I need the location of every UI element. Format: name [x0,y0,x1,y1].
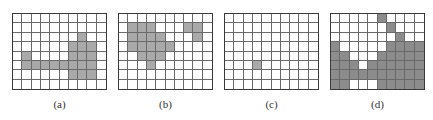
grid-cell [166,80,175,89]
panel-a: (a) [12,13,107,90]
grid-cell [41,14,50,23]
grid-cell [32,14,41,23]
panel-b: (b) [118,13,213,90]
grid-cell-filled [156,42,165,51]
grid-cell [97,52,106,61]
grid-cell-filled [350,61,359,70]
grid-cell [97,14,106,23]
grid-cell [262,14,271,23]
grid-cell [396,23,405,32]
grid-cell [78,14,87,23]
grid-cell [234,23,243,32]
grid-cell [69,80,78,89]
grid-cell [281,42,290,51]
grid-cell-filled [415,42,424,51]
grid-cell-filled [405,42,414,51]
grid-cell-filled [69,61,78,70]
grid-cell [203,23,212,32]
grid-cell [309,33,318,42]
grid-cell [203,14,212,23]
grid-cell [13,70,22,79]
grid-cell-filled [331,42,340,51]
grid-cell [340,42,349,51]
grid-cell [244,33,253,42]
grid-cell [166,33,175,42]
grid-b [118,13,213,90]
grid-cell-filled [78,70,87,79]
grid-cell [396,14,405,23]
grid-cell [32,80,41,89]
grid-cell [309,52,318,61]
grid-cell [405,33,414,42]
grid-cell [138,61,147,70]
grid-cell [225,42,234,51]
grid-cell-filled [147,52,156,61]
grid-cell-filled [184,23,193,32]
grid-cell [60,42,69,51]
grid-cell [119,33,128,42]
grid-cell [97,80,106,89]
grid-cell [193,70,202,79]
grid-cell [41,70,50,79]
grid-cell [184,70,193,79]
grid-cell [22,14,31,23]
grid-cell [128,80,137,89]
grid-cell-filled [147,42,156,51]
grid-cell-filled [415,70,424,79]
grid-cell [156,61,165,70]
grid-cell [147,70,156,79]
grid-cell [272,80,281,89]
grid-cell [119,70,128,79]
grid-cell [50,80,59,89]
grid-cell [184,52,193,61]
grid-cell [156,14,165,23]
grid-cell [272,33,281,42]
grid-cell [225,61,234,70]
grid-cell-filled [378,14,387,23]
grid-cell [60,23,69,32]
grid-cell-filled [396,33,405,42]
grid-cell [378,23,387,32]
grid-cell [32,33,41,42]
grid-cell [166,61,175,70]
grid-cell [78,23,87,32]
grid-cell [331,23,340,32]
grid-cell [203,70,212,79]
grid-cell [262,61,271,70]
grid-cell [203,33,212,42]
grid-cell [119,14,128,23]
grid-cell-filled [396,61,405,70]
grid-cell [87,14,96,23]
grid-cell [97,61,106,70]
grid-cell [368,52,377,61]
grid-cell [309,42,318,51]
grid-cell [244,61,253,70]
grid-cell-filled [138,42,147,51]
grid-cell [225,33,234,42]
grid-cell [290,14,299,23]
grid-cell [272,14,281,23]
grid-cell [50,33,59,42]
grid-cell-filled [368,61,377,70]
grid-cell [359,23,368,32]
grid-cell [87,80,96,89]
grid-cell [262,52,271,61]
grid-cell [340,23,349,32]
grid-cell-filled [415,80,424,89]
grid-cell [156,23,165,32]
grid-cell [13,61,22,70]
grid-cell [340,33,349,42]
grid-cell-filled [147,23,156,32]
grid-cell [281,70,290,79]
grid-cell [166,23,175,32]
grid-c [224,13,319,90]
grid-cell [41,42,50,51]
grid-cell [128,14,137,23]
grid-cell [359,14,368,23]
grid-cell-filled [331,70,340,79]
grid-cell [368,80,377,89]
grid-cell-filled [193,33,202,42]
grid-cell [175,23,184,32]
grid-cell [41,23,50,32]
grid-cell-filled [60,61,69,70]
